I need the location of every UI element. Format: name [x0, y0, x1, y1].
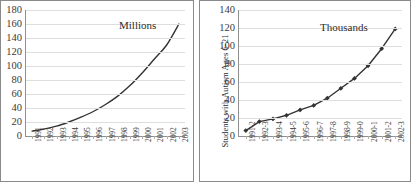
x-tick-mark [354, 136, 355, 139]
y-tick-label: 140 [6, 33, 22, 44]
x-tick-label: 1999-0 [356, 121, 365, 142]
x-tick-mark [300, 136, 301, 139]
gridline [26, 10, 185, 11]
x-tick-label: 1994-5 [289, 121, 298, 142]
right-y-axis-title: Students with Autism Ages 6-21 [220, 16, 230, 166]
x-tick-label: 1996-7 [316, 121, 325, 142]
x-tick-label: 1992 [46, 127, 55, 142]
gridline [26, 66, 185, 67]
x-tick-label: 2001 [156, 127, 165, 142]
gridline [26, 52, 185, 53]
x-tick-mark [395, 136, 396, 139]
left-chart: 020406080100120140160180 Millions 199119… [1, 1, 193, 181]
gridline [239, 10, 402, 11]
x-tick-mark [179, 136, 180, 139]
x-tick-label: 2003 [181, 127, 190, 142]
x-tick-mark [93, 136, 94, 139]
x-tick-label: 2000 [144, 127, 153, 142]
x-tick-mark [259, 136, 260, 139]
x-tick-mark [118, 136, 119, 139]
y-tick-label: 40 [225, 95, 236, 106]
gridline [26, 24, 185, 25]
x-tick-label: 1998 [120, 127, 129, 142]
right-unit-annotation: Thousands [320, 21, 368, 33]
y-tick-label: 140 [219, 5, 235, 16]
y-tick-label: 0 [230, 131, 235, 142]
gridline [239, 46, 402, 47]
y-tick-label: 20 [12, 117, 23, 128]
x-tick-mark [154, 136, 155, 139]
figure-container: 020406080100120140160180 Millions 199119… [0, 0, 411, 182]
x-tick-mark [246, 136, 247, 139]
y-tick-label: 60 [225, 77, 236, 88]
gridline [239, 82, 402, 83]
x-tick-label: 2001-2 [384, 121, 393, 142]
y-tick-label: 160 [6, 19, 22, 30]
x-tick-mark [106, 136, 107, 139]
y-tick-label: 100 [219, 41, 235, 52]
y-tick-label: 80 [225, 59, 236, 70]
x-tick-mark [44, 136, 45, 139]
x-tick-label: 1993 [59, 127, 68, 142]
x-tick-mark [314, 136, 315, 139]
y-tick-label: 20 [225, 113, 236, 124]
y-tick-label: 100 [6, 61, 22, 72]
left-unit-annotation: Millions [119, 19, 156, 31]
x-tick-mark [341, 136, 342, 139]
x-tick-label: 1999 [132, 127, 141, 142]
gridline [26, 38, 185, 39]
gridline [26, 94, 185, 95]
x-tick-mark [273, 136, 274, 139]
y-tick-label: 120 [219, 23, 235, 34]
y-tick-label: 60 [12, 89, 23, 100]
x-tick-mark [287, 136, 288, 139]
gridline [26, 80, 185, 81]
y-tick-label: 0 [17, 131, 22, 142]
x-tick-label: 1991-2 [248, 121, 257, 142]
x-tick-label: 2002-3 [397, 121, 406, 142]
gridline [239, 100, 402, 101]
y-tick-label: 80 [12, 75, 23, 86]
x-tick-label: 1995 [83, 127, 92, 142]
x-tick-mark [142, 136, 143, 139]
x-tick-label: 1993-4 [275, 121, 284, 142]
gridline [26, 108, 185, 109]
x-tick-label: 1995-6 [302, 121, 311, 142]
y-tick-label: 40 [12, 103, 23, 114]
y-tick-label: 180 [6, 5, 22, 16]
x-tick-mark [69, 136, 70, 139]
chart-panel-right: Students with Autism Ages 6-21 020406080… [199, 0, 411, 182]
chart-panel-left: 020406080100120140160180 Millions 199119… [0, 0, 194, 182]
gridline [239, 118, 402, 119]
x-tick-mark [327, 136, 328, 139]
x-tick-mark [130, 136, 131, 139]
x-tick-label: 1996 [95, 127, 104, 142]
x-tick-label: 1994 [71, 127, 80, 142]
x-tick-label: 1991 [34, 127, 43, 142]
x-tick-mark [81, 136, 82, 139]
gridline [26, 122, 185, 123]
left-plot-area [25, 10, 185, 137]
x-tick-label: 2002 [169, 127, 178, 142]
x-tick-label: 1992-3 [261, 121, 270, 142]
right-chart: Students with Autism Ages 6-21 020406080… [200, 1, 410, 181]
x-tick-label: 1997 [108, 127, 117, 142]
x-tick-mark [57, 136, 58, 139]
x-tick-label: 1997-8 [329, 121, 338, 142]
x-tick-mark [167, 136, 168, 139]
gridline [239, 64, 402, 65]
x-tick-label: 1998-9 [343, 121, 352, 142]
x-tick-mark [368, 136, 369, 139]
y-tick-label: 120 [6, 47, 22, 58]
x-tick-label: 2000-1 [370, 121, 379, 142]
x-tick-mark [32, 136, 33, 139]
x-tick-mark [382, 136, 383, 139]
